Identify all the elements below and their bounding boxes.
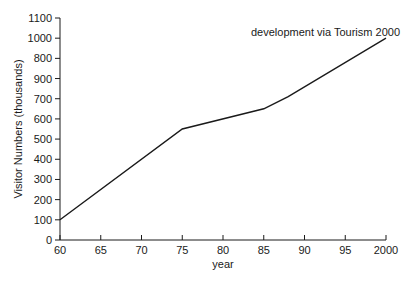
x-tick-label: 75	[176, 244, 188, 256]
y-tick-label: 0	[46, 234, 52, 246]
y-tick-label: 1100	[28, 12, 52, 24]
y-tick-label: 500	[34, 133, 52, 145]
x-axis-title: year	[212, 258, 234, 270]
x-tick-label: 80	[217, 244, 229, 256]
y-tick-label: 700	[34, 93, 52, 105]
x-tick-label: 70	[135, 244, 147, 256]
y-tick-label: 800	[34, 52, 52, 64]
y-tick-label: 1000	[28, 32, 52, 44]
y-tick-label: 200	[34, 194, 52, 206]
x-tick-label: 95	[339, 244, 351, 256]
x-tick-label: 60	[54, 244, 66, 256]
x-tick-label: 90	[298, 244, 310, 256]
visitor-numbers-line	[60, 38, 386, 220]
y-tick-label: 400	[34, 153, 52, 165]
y-tick-label: 600	[34, 113, 52, 125]
x-tick-label: 65	[95, 244, 107, 256]
annotation-label: development via Tourism 2000	[251, 26, 400, 38]
x-axis: 60657075808590952000	[54, 235, 398, 256]
y-tick-label: 900	[34, 73, 52, 85]
x-tick-label: 85	[258, 244, 270, 256]
line-chart: 010020030040050060070090080010001100 606…	[0, 0, 410, 284]
y-axis-title: Visitor Numbers (thousands)	[12, 59, 24, 198]
x-tick-label: 2000	[374, 244, 398, 256]
y-axis: 010020030040050060070090080010001100	[28, 12, 60, 246]
y-tick-label: 300	[34, 173, 52, 185]
y-tick-label: 100	[34, 214, 52, 226]
